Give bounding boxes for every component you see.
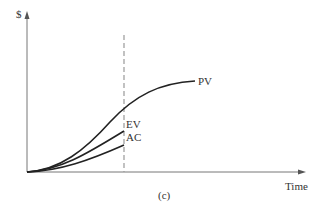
y-axis-arrow-icon bbox=[25, 11, 30, 19]
x-axis-label: Time bbox=[285, 180, 308, 192]
ev-label: EV bbox=[126, 118, 141, 130]
pv-curve bbox=[27, 81, 195, 172]
caption: (c) bbox=[158, 189, 171, 202]
y-axis-label: $ bbox=[16, 8, 22, 20]
chart-canvas: $ PV EV AC Time (c) bbox=[0, 0, 326, 209]
pv-label: PV bbox=[198, 75, 212, 87]
x-axis-arrow-icon bbox=[298, 170, 306, 175]
ac-label: AC bbox=[126, 131, 141, 143]
